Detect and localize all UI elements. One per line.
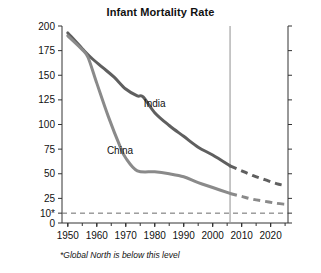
reference-lines <box>62 26 288 223</box>
y-tick-label: 125 <box>38 94 55 105</box>
y-tick-label: 0 <box>49 218 55 229</box>
y-tick-label: 75 <box>44 144 56 155</box>
right-axis-ticks <box>288 26 292 223</box>
series-label-india: India <box>144 98 166 109</box>
y-axis-tick-labels: 010*255075100125150175200 <box>38 21 55 229</box>
x-tick-label: 1950 <box>57 230 80 241</box>
plot-area: 010*255075100125150175200 19501960197019… <box>0 0 321 273</box>
y-tick-label: 200 <box>38 21 55 32</box>
series-projection-india <box>230 166 285 186</box>
y-tick-label: 10* <box>40 208 55 219</box>
series-annotations: IndiaChina <box>107 98 166 156</box>
y-tick-label: 25 <box>44 193 56 204</box>
x-tick-label: 1960 <box>86 230 109 241</box>
y-tick-label: 150 <box>38 70 55 81</box>
y-tick-label: 50 <box>44 168 56 179</box>
x-axis-tick-labels: 19501960197019801990200020102020 <box>57 230 283 241</box>
series-label-china: China <box>107 145 134 156</box>
x-axis: 19501960197019801990200020102020 <box>57 223 288 241</box>
infant-mortality-chart: Infant Mortality Rate Deaths per 1,000 l… <box>0 0 321 273</box>
y-axis: 010*255075100125150175200 <box>38 21 62 229</box>
x-tick-label: 1970 <box>115 230 138 241</box>
x-tick-label: 1980 <box>144 230 167 241</box>
x-tick-label: 2020 <box>259 230 282 241</box>
series-lines <box>68 33 285 204</box>
x-tick-label: 1990 <box>173 230 196 241</box>
x-tick-label: 2000 <box>202 230 225 241</box>
y-tick-label: 100 <box>38 119 55 130</box>
y-tick-label: 175 <box>38 45 55 56</box>
series-projection-china <box>230 193 285 204</box>
y-axis-ticks <box>58 26 62 223</box>
x-tick-label: 2010 <box>231 230 254 241</box>
chart-footnote: *Global North is below this level <box>60 250 180 260</box>
right-axis <box>288 26 292 223</box>
